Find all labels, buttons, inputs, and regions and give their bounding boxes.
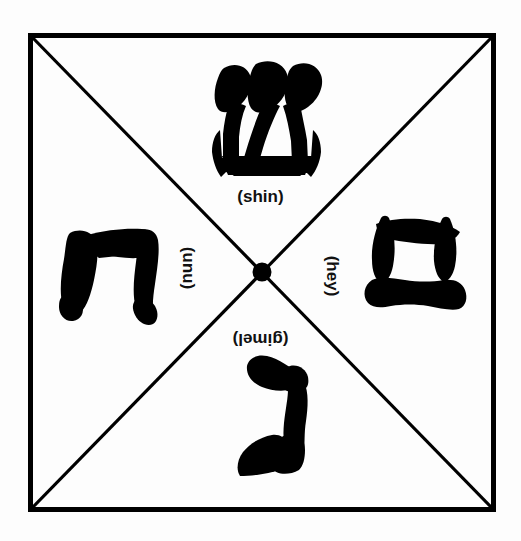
quadrant-label-hey: (hey) <box>324 256 341 297</box>
center-dot <box>253 263 272 282</box>
hebrew-letter-nun <box>59 229 159 325</box>
quadrant-label-nun: (nun) <box>178 247 195 289</box>
quadrant-label-gimel: (gimel) <box>0 331 521 348</box>
hebrew-letter-shin <box>212 61 322 177</box>
hebrew-letter-hey <box>365 216 467 310</box>
hebrew-letter-gimel <box>238 355 309 476</box>
quadrant-label-shin: (shin) <box>0 188 521 205</box>
diagram-canvas <box>0 0 521 541</box>
dreidel-diagram: (shin) (hey) (gimel) (nun) <box>0 0 521 541</box>
